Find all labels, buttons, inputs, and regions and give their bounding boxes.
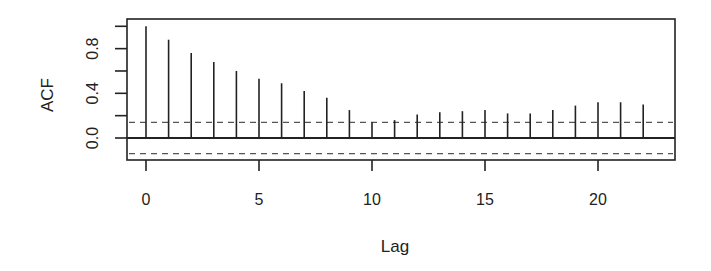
x-tick-label: 0: [142, 191, 151, 208]
acf-bars: [146, 26, 643, 138]
x-tick-label: 20: [589, 191, 607, 208]
x-tick-label: 15: [476, 191, 494, 208]
acf-chart: 0.00.40.8 05101520 Lag ACF: [0, 0, 711, 271]
y-tick-label: 0.4: [84, 82, 101, 104]
y-tick-label: 0.8: [84, 37, 101, 59]
x-tick-label: 10: [363, 191, 381, 208]
x-tick-label: 5: [255, 191, 264, 208]
y-axis-label: ACF: [38, 78, 57, 112]
y-tick-label: 0.0: [84, 127, 101, 149]
x-axis: 05101520: [142, 160, 607, 208]
y-axis: 0.00.40.8: [84, 26, 127, 149]
x-axis-label: Lag: [381, 237, 409, 256]
